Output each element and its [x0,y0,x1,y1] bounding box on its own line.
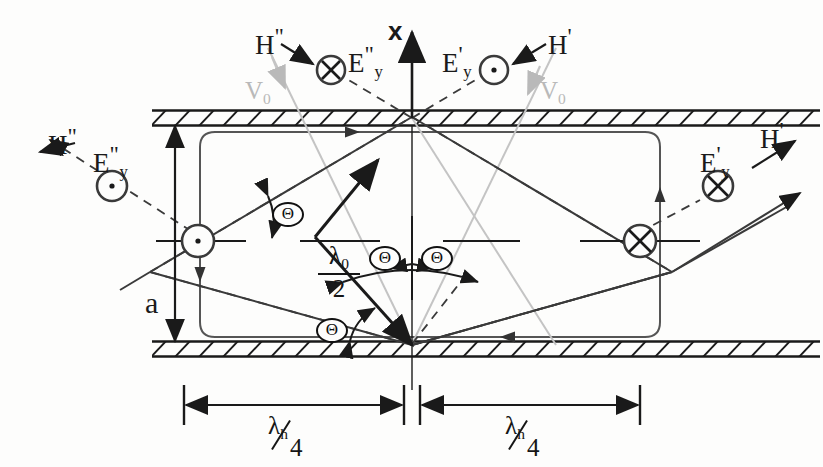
magnetic-field-loop [195,127,666,343]
h-prime-right-label: H' [760,120,784,153]
waveguide-diagram-svg [0,0,823,467]
v0-right-label: V0 [540,78,566,106]
h-prime-top-arrow [513,44,546,64]
ey-prime-top-label: E'y [442,44,472,81]
ey-double-prime-top-symbol [317,56,345,84]
ey-prime-top-symbol [480,56,508,84]
ey-double-prime-top-label: E"y [348,44,383,81]
h-double-prime-top-label: H" [255,26,284,59]
v0-right-arrow [528,66,540,94]
theta-center-right-label: Θ [421,246,453,271]
field-symbol-out-of-page-left [182,225,214,257]
field-symbol-into-page-right [624,225,656,257]
lambda-h-quarter-left-fraction: λh 4 [268,412,324,464]
lambda0-half-angle-arc [343,264,478,282]
lambda-h-quarter-right-fraction: λh 4 [505,412,561,464]
top-wall [150,108,820,127]
ey-prime-right-label: E'y [700,144,730,181]
v0-left-label: V0 [245,78,271,106]
theta-upper-left-label: Θ [272,202,304,227]
h-double-prime-left-label: H" [48,126,77,159]
dimension-a-label: a [145,288,158,318]
diagram-page: x H" H' H" H' E"y E'y E"y E'y V0 V0 a Θ … [0,0,823,467]
bottom-wall [150,339,820,358]
theta-bottom-left-label: Θ [316,318,348,343]
v0-left-arrow [272,57,285,88]
x-axis-label: x [388,18,402,44]
lambda0-half-fraction: λ0 2 [318,243,360,302]
h-double-prime-top-arrow [281,44,313,64]
theta-center-left-label: Θ [369,246,401,271]
h-prime-top-label: H' [548,26,572,59]
ey-double-prime-left-label: E"y [93,144,128,181]
